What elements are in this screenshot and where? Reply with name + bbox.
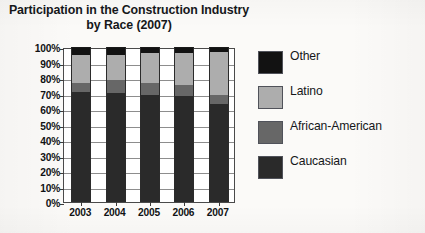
chart-legend: OtherLatinoAfrican-AmericanCaucasian [256,48,422,188]
bar-segment-african-american [174,85,194,96]
x-tick-label: 2006 [172,207,194,218]
bar-2003 [71,49,91,202]
legend-swatch-icon [258,121,283,144]
y-tick-label: 0% [46,198,60,209]
y-axis-tick [60,96,64,97]
bar-segment-latino [71,55,91,83]
y-axis-tick-labels: 0%10%20%30%40%50%60%70%80%90%100% [18,43,60,199]
chart-title-line-2: by Race (2007) [0,18,258,33]
chart-title-line-1: Participation in the Construction Indust… [9,3,249,17]
y-axis-tick [60,142,64,143]
bar-segment-african-american [209,95,229,104]
y-tick-label: 40% [40,136,60,147]
bar-segment-latino [140,53,160,83]
legend-swatch-icon [258,156,283,179]
y-axis-tick [60,111,64,112]
y-axis-tick [60,127,64,128]
x-axis-tick-labels: 20032004200520062007 [63,207,235,223]
bar-2006 [174,49,194,202]
y-axis-tick [60,189,64,190]
plot-area [63,48,235,203]
y-axis-tick [60,173,64,174]
chart-title: Participation in the Construction Indust… [0,3,258,33]
bar-2007 [209,49,229,202]
y-tick-label: 90% [40,58,60,69]
bar-segment-other [140,47,160,53]
bar-segment-latino [174,53,194,85]
x-tick-label: 2004 [104,207,126,218]
y-tick-label: 30% [40,151,60,162]
bar-2004 [106,49,126,202]
legend-item: African-American [256,118,422,153]
bar-segment-african-american [106,80,126,93]
legend-label: Other [290,49,320,63]
x-tick-label: 2005 [138,207,160,218]
bar-segment-latino [106,55,126,80]
legend-label: Caucasian [290,154,347,168]
legend-label: African-American [290,119,382,133]
y-tick-label: 50% [40,120,60,131]
y-axis-tick [60,158,64,159]
bar-segment-other [174,47,194,53]
bar-segment-african-american [140,83,160,95]
y-tick-label: 70% [40,89,60,100]
chart-figure: Participation in the Construction Indust… [0,0,425,233]
legend-item: Latino [256,83,422,118]
x-axis-tick [184,202,185,206]
bar-segment-caucasian [174,96,194,202]
bar-2005 [140,49,160,202]
y-axis-tick [60,204,64,205]
x-tick-label: 2007 [207,207,229,218]
bar-segment-latino [209,52,229,95]
y-tick-label: 20% [40,167,60,178]
legend-item: Other [256,48,422,83]
y-tick-label: 10% [40,182,60,193]
legend-swatch-icon [258,51,283,74]
bar-segment-caucasian [140,95,160,202]
bar-segment-other [209,47,229,52]
legend-label: Latino [290,84,323,98]
legend-item: Caucasian [256,153,422,188]
bar-segment-caucasian [106,93,126,202]
x-axis-tick [219,202,220,206]
y-axis-tick [60,49,64,50]
bar-segment-caucasian [209,104,229,202]
legend-swatch-icon [258,86,283,109]
x-axis-tick [81,202,82,206]
x-axis-tick [150,202,151,206]
bar-segment-african-american [71,83,91,92]
bar-segment-other [106,47,126,55]
bar-segment-other [71,47,91,55]
x-tick-label: 2003 [69,207,91,218]
x-axis-tick [116,202,117,206]
y-tick-label: 80% [40,74,60,85]
y-axis-tick [60,65,64,66]
y-axis-tick [60,80,64,81]
bar-segment-caucasian [71,92,91,202]
y-tick-label: 100% [35,43,60,54]
y-tick-label: 60% [40,105,60,116]
